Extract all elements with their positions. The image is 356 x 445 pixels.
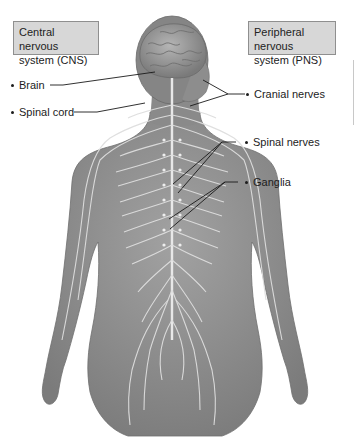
- label-ganglia: Ganglia: [245, 176, 291, 188]
- label-spinal-cord: Spinal cord: [11, 106, 74, 118]
- pns-box-line2: system (PNS): [254, 53, 330, 67]
- label-brain: Brain: [11, 79, 45, 91]
- bullet-icon: [245, 141, 248, 144]
- label-spinal-nerves-text: Spinal nerves: [253, 136, 320, 148]
- pns-box-line1: Peripheral nervous: [254, 25, 330, 53]
- nervous-system-diagram: Central nervous system (CNS) Peripheral …: [0, 0, 356, 445]
- bullet-icon: [245, 181, 248, 184]
- label-cranial-nerves: Cranial nerves: [246, 88, 325, 100]
- bullet-icon: [246, 93, 249, 96]
- label-spinal-nerves: Spinal nerves: [245, 136, 320, 148]
- cns-box-line1: Central nervous: [19, 25, 93, 53]
- label-spinal-cord-text: Spinal cord: [19, 106, 74, 118]
- pns-category-box: Peripheral nervous system (PNS): [248, 21, 336, 55]
- brain: [140, 24, 206, 78]
- page-edge-divider: [353, 60, 354, 125]
- cns-box-line2: system (CNS): [19, 53, 93, 67]
- label-cranial-nerves-text: Cranial nerves: [254, 88, 325, 100]
- cns-category-box: Central nervous system (CNS): [13, 21, 99, 55]
- bullet-icon: [11, 111, 14, 114]
- label-ganglia-text: Ganglia: [253, 176, 291, 188]
- label-brain-text: Brain: [19, 79, 45, 91]
- bullet-icon: [11, 84, 14, 87]
